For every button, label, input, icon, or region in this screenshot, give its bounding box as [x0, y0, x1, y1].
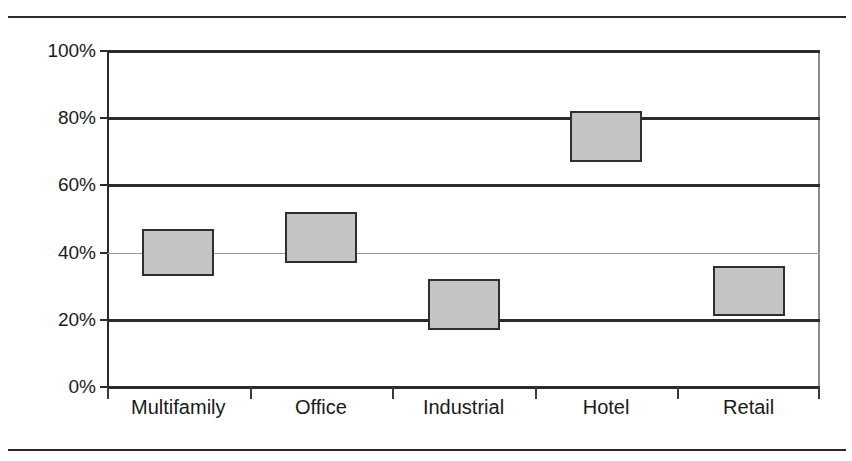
- x-tick-1: [250, 387, 252, 399]
- x-tick-3: [535, 387, 537, 399]
- gridline-0: [107, 386, 820, 389]
- gridline-80: [107, 117, 820, 120]
- y-tick-label-0: 0%: [0, 376, 96, 398]
- x-tick-2: [392, 387, 394, 399]
- x-tick-4: [677, 387, 679, 399]
- gridline-100: [107, 50, 820, 53]
- x-tick-edge-0: [107, 387, 109, 399]
- y-tick-label-100: 100%: [0, 40, 96, 62]
- range-box-retail: [713, 266, 785, 316]
- y-tick-label-40: 40%: [0, 242, 96, 264]
- page-rule-bottom: [8, 449, 846, 451]
- y-axis-line: [107, 51, 109, 387]
- x-axis-label-multifamily: Multifamily: [131, 396, 225, 419]
- x-axis-label-retail: Retail: [723, 396, 774, 419]
- y-tick-label-60: 60%: [0, 174, 96, 196]
- range-box-industrial: [428, 279, 500, 329]
- x-axis-label-hotel: Hotel: [583, 396, 630, 419]
- range-box-hotel: [570, 111, 642, 161]
- x-axis-label-office: Office: [295, 396, 347, 419]
- y-axis: 100%80%60%40%20%0%: [0, 51, 96, 387]
- x-axis-label-industrial: Industrial: [423, 396, 504, 419]
- gridline-60: [107, 184, 820, 187]
- y-tick-label-20: 20%: [0, 309, 96, 331]
- chart-figure: 100%80%60%40%20%0% MultifamilyOfficeIndu…: [0, 0, 852, 461]
- plot-area: [107, 51, 820, 387]
- x-tick-edge-5: [818, 387, 820, 399]
- range-box-office: [285, 212, 357, 262]
- cropped-title-remnant: [560, 0, 750, 5]
- page-rule-top: [8, 16, 846, 18]
- plot-right-border: [818, 51, 820, 387]
- y-tick-label-80: 80%: [0, 107, 96, 129]
- range-box-multifamily: [142, 229, 214, 276]
